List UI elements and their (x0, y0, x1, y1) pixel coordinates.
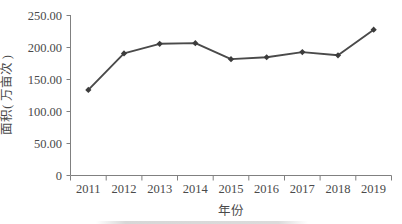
x-tick-label: 2011 (76, 182, 101, 196)
data-point-marker (192, 40, 198, 46)
x-tick-label: 2012 (112, 182, 137, 196)
y-tick-label: 250.00 (28, 9, 62, 23)
x-tick-label: 2016 (254, 182, 279, 196)
y-tick-label: 50.00 (34, 137, 62, 151)
cropped-caption-remnant (96, 221, 308, 224)
y-axis-title: 面积( 万亩次 ) (0, 55, 14, 135)
series-markers (85, 27, 377, 93)
data-point-marker (264, 54, 270, 60)
x-tick-label: 2013 (147, 182, 172, 196)
y-tick-label: 150.00 (28, 73, 62, 87)
chart-canvas: 250.00 200.00 150.00 100.00 50.00 0 (0, 0, 402, 224)
x-tick-label: 2019 (361, 182, 386, 196)
line-chart: 250.00 200.00 150.00 100.00 50.00 0 (0, 0, 402, 224)
data-point-marker (157, 41, 163, 47)
x-tick-label: 2018 (325, 182, 350, 196)
x-axis-title: 年份 (218, 204, 244, 218)
data-point-marker (299, 49, 305, 55)
y-tick-label: 200.00 (28, 41, 62, 55)
data-point-marker (228, 56, 234, 62)
y-tick-label: 100.00 (28, 105, 62, 119)
x-axis-tick-labels: 2011 2012 2013 2014 2015 2016 2017 2018 … (76, 182, 386, 196)
x-tick-label: 2014 (183, 182, 209, 196)
x-axis (71, 176, 392, 181)
data-series-group (85, 27, 377, 93)
y-axis-tick-labels: 250.00 200.00 150.00 100.00 50.00 0 (28, 9, 62, 183)
x-tick-label: 2017 (290, 182, 315, 196)
y-axis (67, 15, 71, 176)
x-tick-label: 2015 (219, 182, 244, 196)
y-tick-label: 0 (56, 169, 62, 183)
